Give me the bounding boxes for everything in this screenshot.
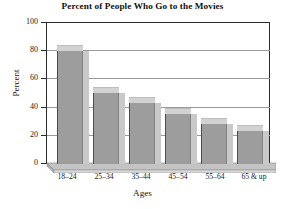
bar-side-face [227, 124, 233, 164]
bar-front-face [165, 114, 191, 164]
x-label-25-34: 25–34 [83, 172, 125, 181]
x-axis-title: Ages [0, 188, 285, 198]
bar-side-face [83, 51, 89, 164]
bar-front-face [237, 131, 263, 164]
x-label-18-24: 18–24 [46, 172, 88, 181]
bar-front-face [93, 93, 119, 164]
bar-side-face [191, 114, 197, 164]
x-label-45-54: 45–54 [157, 172, 199, 181]
bar-front-face [57, 51, 83, 164]
bar-chart: Percent of People Who Go to the Movies 1… [0, 0, 285, 209]
bar-side-face [119, 93, 125, 164]
x-label-35-44: 35–44 [120, 172, 162, 181]
x-label-65-up: 65 & up [230, 172, 278, 181]
bar-side-face [263, 131, 269, 164]
bar-front-face [129, 103, 155, 164]
bar-front-face [201, 124, 227, 164]
bar-side-face [155, 103, 161, 164]
